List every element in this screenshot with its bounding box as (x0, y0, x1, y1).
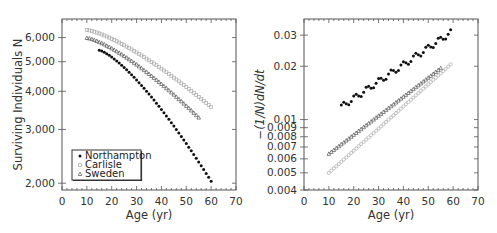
x-tick-label: 60 (204, 195, 217, 207)
right-mortality-rate-plot: 0102030405060700.0040.0050.0060.0070.008… (253, 19, 485, 222)
x-tick-label: 40 (397, 195, 410, 207)
y-tick-label: 0.005 (267, 166, 297, 178)
y-tick-label: 0.007 (267, 140, 297, 152)
left-survival-plot: 0102030405060702,0003,0004,0005,0006,000… (11, 19, 243, 222)
y-axis-label: Surviving Individuals N (11, 39, 25, 171)
series-northampton (340, 28, 452, 106)
y-tick-label: 0.004 (267, 184, 297, 196)
series-carlisle (327, 63, 452, 175)
northampton-marker-icon (79, 155, 82, 158)
x-tick-label: 50 (422, 195, 435, 207)
legend-entry: Sweden (85, 168, 125, 179)
series-sweden (85, 36, 200, 119)
x-tick-label: 50 (180, 195, 193, 207)
x-tick-label: 30 (130, 195, 143, 207)
y-tick-label: 0.02 (274, 60, 297, 72)
y-tick-label: 0.01 (274, 113, 297, 125)
x-axis-label: Age (yr) (368, 208, 414, 222)
y-tick-label: 4,000 (25, 85, 55, 97)
legend: NorthamptonCarlisleSweden (72, 150, 152, 181)
x-axis-label: Age (yr) (126, 208, 172, 222)
y-axis-label: −(1/N)dN/dt (253, 69, 267, 139)
x-tick-label: 20 (347, 195, 360, 207)
x-tick-label: 10 (322, 195, 335, 207)
figure: 0102030405060702,0003,0004,0005,0006,000… (0, 0, 497, 233)
series-carlisle (85, 29, 212, 109)
x-tick-label: 30 (372, 195, 385, 207)
x-tick-label: 70 (471, 195, 484, 207)
y-tick-label: 3,000 (25, 123, 55, 135)
x-tick-label: 0 (301, 195, 308, 207)
y-tick-label: 0.006 (267, 152, 297, 164)
x-tick-label: 40 (155, 195, 168, 207)
x-tick-label: 10 (80, 195, 93, 207)
y-tick-label: 0.03 (274, 29, 297, 41)
y-tick-label: 5,000 (25, 55, 55, 67)
x-tick-label: 60 (446, 195, 459, 207)
x-tick-label: 20 (105, 195, 118, 207)
y-tick-label: 2,000 (25, 177, 55, 189)
x-tick-label: 70 (229, 195, 242, 207)
y-tick-label: 6,000 (25, 31, 55, 43)
x-tick-label: 0 (59, 195, 66, 207)
